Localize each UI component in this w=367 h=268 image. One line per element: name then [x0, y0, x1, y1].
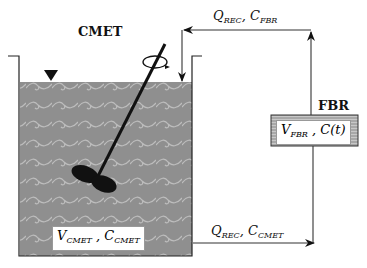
liquid-level-triangle-icon: [44, 70, 58, 81]
tank-volume-label: VCMET , CCMET: [52, 226, 145, 251]
reactor-title: FBR: [318, 98, 349, 113]
tank-title: CMET: [78, 24, 122, 39]
flow-label-top: QREC, CFBR: [213, 8, 277, 25]
recycle-line-top: [182, 30, 311, 116]
reactor-volume-label: VFBR , C(t): [276, 120, 351, 145]
flow-label-bottom: QREC, CCMET: [211, 223, 283, 240]
